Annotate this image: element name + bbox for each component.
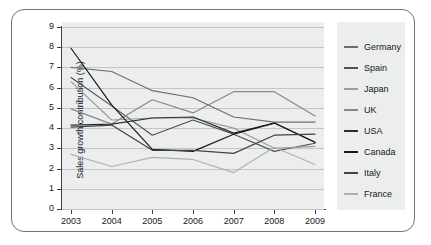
x-axis-tick-label: 2008 — [254, 216, 294, 226]
line-chart: Sales growth contribution (%) 0123456789… — [0, 0, 431, 245]
y-axis-tick-mark — [57, 148, 61, 149]
legend-item-label: Canada — [364, 147, 396, 157]
y-axis-tick-mark — [57, 189, 61, 190]
x-axis-tick-label: 2009 — [295, 216, 335, 226]
x-axis-tick-mark — [274, 210, 275, 214]
y-axis-tick-mark — [57, 169, 61, 170]
x-axis-tick-label: 2003 — [51, 216, 91, 226]
legend-item[interactable]: France — [344, 183, 428, 204]
legend-color-swatch — [344, 67, 358, 69]
x-axis-tick-label: 2007 — [214, 216, 254, 226]
y-axis-tick-mark — [57, 108, 61, 109]
legend-item[interactable]: UK — [344, 99, 428, 120]
y-axis-tick-mark — [57, 128, 61, 129]
legend-item[interactable]: Japan — [344, 78, 428, 99]
legend-color-swatch — [344, 109, 358, 111]
x-axis-tick-label: 2004 — [92, 216, 132, 226]
legend-color-swatch — [344, 193, 358, 195]
legend-item-label: UK — [364, 105, 377, 115]
x-axis-tick-label: 2005 — [132, 216, 172, 226]
legend-item[interactable]: Spain — [344, 57, 428, 78]
x-axis-tick-mark — [193, 210, 194, 214]
legend-item-label: Japan — [364, 84, 389, 94]
series-line — [71, 78, 315, 152]
y-axis-tick-label: 6 — [40, 83, 54, 92]
y-axis-tick-label: 5 — [40, 103, 54, 112]
legend-item-label: USA — [364, 126, 383, 136]
y-axis-tick-label: 7 — [40, 62, 54, 71]
legend-color-swatch — [344, 172, 358, 174]
x-axis-tick-label: 2006 — [173, 216, 213, 226]
y-axis-tick-mark — [57, 47, 61, 48]
y-axis-tick-label: 4 — [40, 123, 54, 132]
legend-color-swatch — [344, 46, 358, 48]
legend-item[interactable]: Canada — [344, 141, 428, 162]
legend-item-label: Spain — [364, 63, 387, 73]
legend-item-label: Germany — [364, 42, 401, 52]
x-axis-tick-mark — [152, 210, 153, 214]
x-axis-tick-mark — [234, 210, 235, 214]
legend: GermanySpainJapanUKUSACanadaItalyFrance — [344, 36, 428, 204]
series-lines — [62, 27, 324, 209]
x-axis-tick-mark — [71, 210, 72, 214]
y-axis-tick-mark — [57, 209, 61, 210]
x-axis-tick-mark — [315, 210, 316, 214]
y-axis-tick-label: 1 — [40, 184, 54, 193]
y-axis-tick-label: 0 — [40, 204, 54, 213]
legend-item-label: France — [364, 189, 392, 199]
legend-color-swatch — [344, 88, 358, 90]
series-line — [71, 48, 315, 151]
legend-item[interactable]: Italy — [344, 162, 428, 183]
series-line — [71, 117, 315, 142]
x-axis-tick-mark — [112, 210, 113, 214]
y-axis-tick-label: 8 — [40, 42, 54, 51]
y-axis-tick-mark — [57, 88, 61, 89]
legend-item[interactable]: Germany — [344, 36, 428, 57]
legend-item-label: Italy — [364, 168, 381, 178]
series-line — [71, 92, 315, 124]
y-axis-tick-label: 2 — [40, 164, 54, 173]
legend-color-swatch — [344, 130, 358, 132]
legend-item[interactable]: USA — [344, 120, 428, 141]
y-axis-tick-label: 9 — [40, 22, 54, 31]
y-axis-tick-mark — [57, 27, 61, 28]
legend-color-swatch — [344, 151, 358, 153]
y-axis-tick-mark — [57, 67, 61, 68]
y-axis-tick-label: 3 — [40, 143, 54, 152]
series-line — [71, 82, 315, 149]
